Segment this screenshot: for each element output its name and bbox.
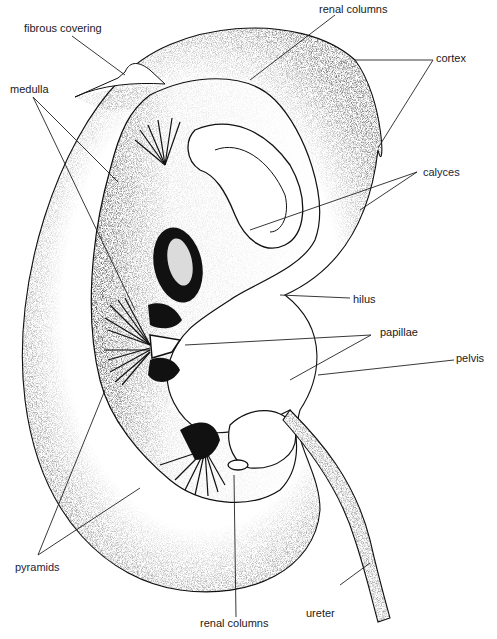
label-pelvis: pelvis: [456, 352, 484, 364]
label-fibrous-covering: fibrous covering: [24, 22, 102, 34]
label-medulla: medulla: [10, 83, 49, 95]
label-calyces: calyces: [423, 166, 460, 178]
label-renal-columns-top: renal columns: [319, 3, 387, 15]
label-papillae: papillae: [380, 326, 418, 338]
kidney-diagram: [0, 0, 497, 639]
label-ureter: ureter: [306, 607, 335, 619]
label-cortex: cortex: [436, 52, 466, 64]
label-hilus: hilus: [353, 293, 376, 305]
label-renal-columns-bottom: renal columns: [200, 617, 268, 629]
label-pyramids: pyramids: [15, 561, 60, 573]
